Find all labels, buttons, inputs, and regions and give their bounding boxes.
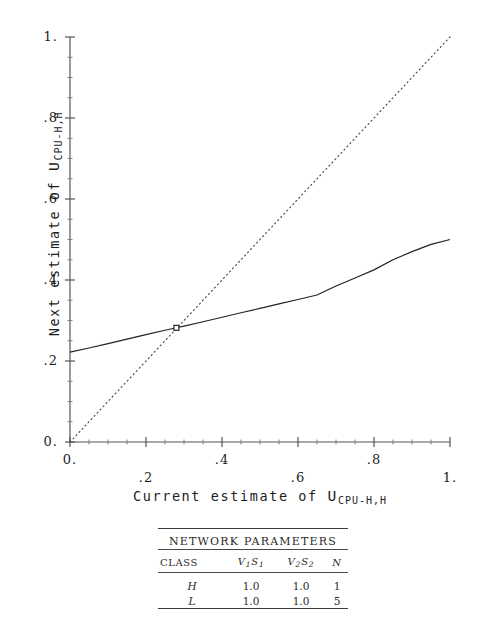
y-axis-title-subscript: CPU-H,H xyxy=(53,111,64,160)
x-tick-label: 0. xyxy=(50,452,90,467)
x-tick-label: .6 xyxy=(278,470,318,485)
cell-v1s1: 1.0 xyxy=(226,593,276,609)
network-parameters-table: NETWORK PARAMETERS CLASS V1S1 V2S2 N H 1… xyxy=(158,528,348,614)
cell-v2s2: 1.0 xyxy=(276,578,326,593)
x-axis-title: Current estimate of UCPU-H,H xyxy=(60,488,460,506)
v1-base: V xyxy=(238,556,246,567)
cell-n: 5 xyxy=(326,593,348,609)
y-tick-label: 1. xyxy=(18,29,58,44)
x-axis-ticks xyxy=(70,437,450,447)
cell-v1s1: 1.0 xyxy=(226,578,276,593)
x-axis-title-prefix: Current estimate of xyxy=(133,488,328,504)
y-axis-ticks xyxy=(65,37,75,442)
data-point-markers xyxy=(174,325,179,330)
table-caption-row: NETWORK PARAMETERS xyxy=(158,534,348,550)
cell-v2s2: 1.0 xyxy=(276,593,326,609)
column-header-v2s2: V2S2 xyxy=(276,555,326,572)
s2-sub: 2 xyxy=(309,560,315,569)
column-header-v1s1: V1S1 xyxy=(226,555,276,572)
s1-base: S xyxy=(251,556,259,567)
next-estimate-curve xyxy=(70,240,450,353)
y-axis-title-symbol: U xyxy=(46,161,62,171)
s2-base: S xyxy=(301,556,309,567)
s1-sub: 1 xyxy=(259,560,265,569)
x-axis-title-symbol: U xyxy=(328,488,338,504)
marker-fixed-point xyxy=(174,325,179,330)
cell-class: H xyxy=(158,578,226,593)
v2-base: V xyxy=(288,556,296,567)
y-axis-title: Next estimate of UCPU-H,H xyxy=(46,74,64,374)
cell-class: L xyxy=(158,593,226,609)
table-header-row: CLASS V1S1 V2S2 N xyxy=(158,555,348,572)
x-tick-label: .2 xyxy=(126,470,166,485)
y-tick-label: 0. xyxy=(18,434,58,449)
column-header-class: CLASS xyxy=(158,555,226,572)
table-row: L 1.0 1.0 5 xyxy=(158,593,348,609)
column-header-n: N xyxy=(326,555,348,572)
x-tick-label: 1. xyxy=(430,470,470,485)
n-label: N xyxy=(332,557,342,568)
x-tick-label: .4 xyxy=(202,452,242,467)
x-axis-title-subscript: CPU-H,H xyxy=(338,495,387,506)
y-axis-title-prefix: Next estimate of xyxy=(46,171,62,336)
table-row: H 1.0 1.0 1 xyxy=(158,578,348,593)
identity-reference-line xyxy=(70,37,450,442)
x-tick-label: .8 xyxy=(354,452,394,467)
table-rule-bottom xyxy=(158,608,348,614)
plot-area xyxy=(0,0,481,500)
cell-n: 1 xyxy=(326,578,348,593)
network-parameters-table-wrapper: NETWORK PARAMETERS CLASS V1S1 V2S2 N H 1… xyxy=(158,528,348,614)
figure-container: 0..2.4.6.81. 0..2.4.6.81. Next estimate … xyxy=(0,0,481,640)
table-caption: NETWORK PARAMETERS xyxy=(158,534,348,550)
